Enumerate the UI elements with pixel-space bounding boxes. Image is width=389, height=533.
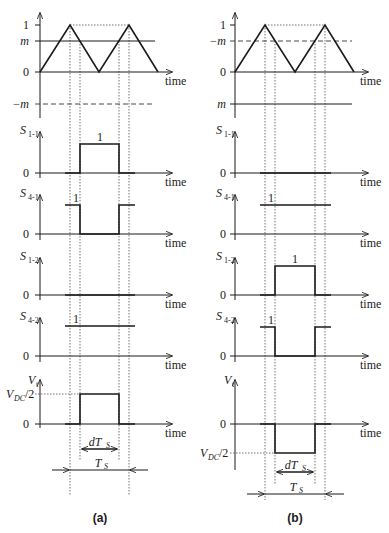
svg-text:S: S [216,309,222,323]
svg-text:4-2: 4-2 [28,316,39,325]
svg-text:0: 0 [220,227,226,241]
signal-s1-2: S 1-2 0 time [20,249,186,311]
svg-text:0: 0 [220,65,226,79]
svg-text:time: time [360,358,381,372]
caption-b: (b) [287,511,302,525]
triangle-carrier [235,25,354,72]
svg-text:S: S [216,123,222,137]
svg-text:time: time [165,358,186,372]
panel-a: 1 m 0 −m time S 1-1 1 0 time S 4-1 1 0 t… [6,13,186,525]
svg-text:time: time [165,297,186,311]
svg-text:4-1: 4-1 [224,193,235,202]
svg-text:time: time [360,426,381,440]
time-label: time [165,74,186,88]
svg-text:−m: −m [209,34,226,48]
signal-s4-2: S 4-2 1 0 time [20,309,186,372]
svg-text:0: 0 [220,166,226,180]
svg-text:time: time [165,426,186,440]
level-m: m [20,34,29,48]
signal-s4-1: S 4-1 1 0 time [20,186,186,250]
Ts-label: T [95,456,103,470]
svg-text:1-1: 1-1 [28,130,39,139]
svg-text:1: 1 [292,252,298,266]
svg-text:1: 1 [97,130,103,144]
svg-text:m: m [217,97,226,111]
svg-text:0: 0 [220,349,226,363]
svg-text:/2: /2 [25,387,34,401]
svg-text:time: time [360,74,381,88]
svg-text:0: 0 [23,417,29,431]
svg-text:1: 1 [268,191,274,205]
svg-text:1: 1 [73,312,79,326]
svg-text:/2: /2 [219,446,228,460]
dimension-annotations: dT S T S [247,458,344,495]
signal-s4-2: S 4-2 1 0 time [216,309,381,372]
svg-text:S: S [302,464,306,473]
svg-text:1-1: 1-1 [224,130,235,139]
carrier-plot: 1 m 0 −m time [12,13,186,118]
svg-text:S: S [20,309,26,323]
svg-text:1: 1 [73,191,79,205]
svg-text:t: t [36,380,39,389]
panel-b: 1 −m 0 m time S 1-1 0 time S 4-1 1 0 tim… [200,13,381,525]
svg-text:S: S [20,249,26,263]
svg-text:0: 0 [220,417,226,431]
svg-text:DC: DC [13,394,26,403]
pwm-switching-diagram: 1 m 0 −m time S 1-1 1 0 time S 4-1 1 0 t… [0,0,389,533]
svg-text:time: time [360,236,381,250]
svg-text:4-2: 4-2 [224,316,235,325]
svg-text:1: 1 [220,18,226,32]
triangle-carrier [40,25,158,72]
svg-text:1-2: 1-2 [224,256,235,265]
svg-text:S: S [20,123,26,137]
signal-s1-2: S 1-2 1 0 time [216,249,381,311]
svg-text:S: S [299,486,303,495]
svg-text:0: 0 [23,349,29,363]
signal-s1-1: S 1-1 0 time [216,123,381,189]
svg-text:0: 0 [23,288,29,302]
svg-text:T: T [290,480,298,494]
svg-text:0: 0 [220,288,226,302]
svg-text:1: 1 [268,313,274,327]
svg-text:S: S [106,441,110,450]
svg-text:S: S [20,186,26,200]
svg-text:0: 0 [23,166,29,180]
signal-s1-1: S 1-1 1 0 time [20,123,186,189]
svg-text:time: time [360,297,381,311]
svg-text:S: S [216,186,222,200]
carrier-plot: 1 −m 0 m time [209,13,381,118]
signal-vt: V t V DC /2 0 time [6,373,186,440]
level-neg-m: −m [12,97,29,111]
dTs-label: dT [89,435,103,449]
level-zero: 0 [23,65,29,79]
svg-text:S: S [104,462,108,471]
signal-vt: V t V DC /2 0 time [200,373,381,470]
level-one: 1 [23,18,29,32]
svg-text:time: time [360,175,381,189]
signal-s4-1: S 4-1 1 0 time [216,186,381,250]
svg-text:4-1: 4-1 [28,193,39,202]
svg-text:time: time [165,236,186,250]
svg-text:1-2: 1-2 [28,256,39,265]
svg-text:dT: dT [285,458,299,472]
dimension-annotations: dT S T S [52,435,148,471]
caption-a: (a) [93,511,108,525]
svg-text:DC: DC [207,453,220,462]
svg-text:0: 0 [23,227,29,241]
svg-text:time: time [165,175,186,189]
svg-text:S: S [216,249,222,263]
